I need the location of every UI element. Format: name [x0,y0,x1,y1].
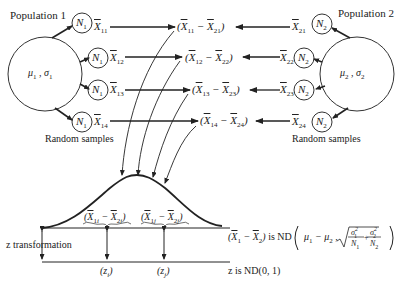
random-samples-caption-1: Random samples [45,134,114,144]
normal-curve [42,175,222,228]
sample-mean-x22: X22 [280,52,294,66]
sample-mean-x13: X13 [110,84,124,98]
difference-2: (X12 − X22) [185,52,233,66]
curve-label-j: (X1j − X2j) [141,212,183,225]
sample-size-n1: N1 [92,84,103,98]
mean-difference: μ1 − μ2 , [304,232,338,245]
sample-size-n2: N2 [298,52,309,66]
random-samples-caption-2: Random samples [292,134,361,144]
z-distribution-statement: z is ND(0, 1) [228,266,280,276]
population1-title: Population 1 [10,10,66,21]
sample-mean-x23: X23 [280,84,294,98]
variance-term-2: σ22 [370,226,376,239]
z-transformation-label: z transformation [6,240,72,250]
curve-label-i: (X1i − X2i) [84,212,126,225]
variance-term-1: σ21 [351,226,357,239]
sample-mean-x14: X14 [94,116,108,130]
z-label-j: (zj) [157,266,170,279]
n1-denominator: N1 [351,240,359,250]
sample-size-n2: N2 [298,84,309,98]
population2-params: μ2 , σ2 [340,68,364,81]
sample-mean-x11: X11 [94,21,107,35]
population2-title: Population 2 [338,8,394,19]
plus-sign: + [364,234,369,242]
distribution-statement: (X1 − X2) is ND [228,232,292,245]
difference-3: (X13 − X23) [192,84,240,98]
sample-mean-x24: X24 [292,116,306,130]
population1-params: μ1 , σ1 [28,68,52,81]
is-nd-text: is ND [268,231,292,242]
sample-size-n2: N2 [316,116,327,130]
sample-mean-x21: X21 [292,21,306,35]
difference-1: (X11 − X21) [177,21,225,35]
sample-mean-x12: X12 [110,52,124,66]
sample-size-n1: N1 [76,116,87,130]
sample-size-n1: N1 [76,17,87,31]
difference-4: (X14 − X24) [200,115,248,129]
n2-denominator: N2 [370,240,378,250]
z-label-i: (zi) [100,266,113,279]
sample-size-n1: N1 [92,52,103,66]
sample-size-n2: N2 [316,18,327,32]
